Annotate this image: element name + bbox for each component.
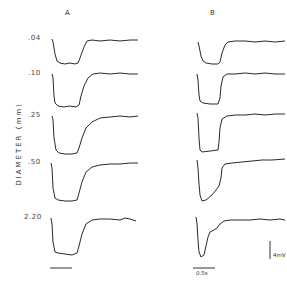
trace-a-25 <box>52 116 138 154</box>
time-scale-label: 0.5s <box>196 270 208 276</box>
trace-a-50 <box>51 163 138 201</box>
trace-a-220 <box>51 218 136 255</box>
trace-a-10 <box>52 73 138 107</box>
trace-b-10 <box>197 73 285 104</box>
voltage-scale-label: 4mV <box>273 252 286 258</box>
trace-a-04 <box>52 39 138 64</box>
trace-b-25 <box>197 113 285 152</box>
trace-b-50 <box>197 159 285 201</box>
trace-b-04 <box>198 41 285 64</box>
traces-plot <box>0 0 287 284</box>
trace-b-220 <box>196 217 285 257</box>
